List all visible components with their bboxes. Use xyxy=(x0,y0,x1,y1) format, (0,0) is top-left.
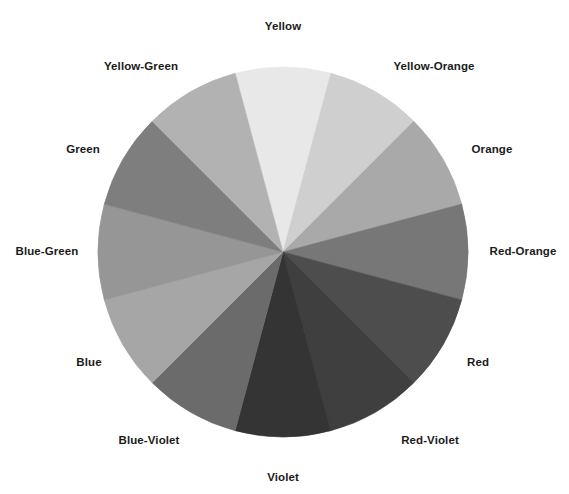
wheel-label-blue: Blue xyxy=(76,356,101,369)
wheel-label-yellow-green: Yellow-Green xyxy=(104,60,178,73)
wheel-label-green: Green xyxy=(66,143,100,156)
wheel-label-blue-green: Blue-Green xyxy=(16,245,79,258)
wheel-label-blue-violet: Blue-Violet xyxy=(119,434,180,447)
color-wheel-graphic xyxy=(0,0,569,494)
wheel-label-violet: Violet xyxy=(267,471,299,484)
color-wheel-slices xyxy=(98,67,468,437)
wheel-label-yellow-orange: Yellow-Orange xyxy=(393,60,474,73)
wheel-label-red: Red xyxy=(467,356,489,369)
wheel-label-red-violet: Red-Violet xyxy=(401,434,459,447)
wheel-label-red-orange: Red-Orange xyxy=(490,245,557,258)
wheel-label-orange: Orange xyxy=(472,143,513,156)
wheel-label-yellow: Yellow xyxy=(265,20,301,33)
color-wheel-figure: YellowYellow-OrangeOrangeRed-OrangeRedRe… xyxy=(0,0,569,494)
